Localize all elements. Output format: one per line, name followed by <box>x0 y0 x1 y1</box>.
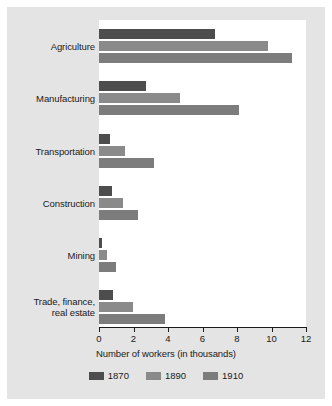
bar-1870 <box>99 290 113 300</box>
legend-item-1870: 1870 <box>89 370 129 381</box>
x-axis-tick-label: 8 <box>225 333 249 344</box>
bar-1910 <box>99 53 292 63</box>
bar-1890 <box>99 146 125 156</box>
bar-1890 <box>99 250 107 260</box>
bar-group <box>99 29 309 63</box>
x-axis-tick <box>134 327 135 332</box>
category-label: Trade, finance, real estate <box>0 296 95 318</box>
x-axis-tick-label: 10 <box>260 333 284 344</box>
category-label: Construction <box>0 198 95 209</box>
bar-1870 <box>99 186 112 196</box>
bar-1910 <box>99 314 165 324</box>
legend-swatch-1870 <box>89 372 104 380</box>
legend-item-1910: 1910 <box>203 370 243 381</box>
category-label: Manufacturing <box>0 93 95 104</box>
x-axis-tick <box>237 327 238 332</box>
x-axis-tick <box>203 327 204 332</box>
x-axis-tick-label: 0 <box>87 333 111 344</box>
bar-group <box>99 81 309 115</box>
bar-1890 <box>99 198 123 208</box>
legend-label-1910: 1910 <box>222 370 243 381</box>
legend-swatch-1890 <box>146 372 161 380</box>
legend-label-1890: 1890 <box>165 370 186 381</box>
bar-1870 <box>99 29 215 39</box>
bar-1870 <box>99 134 110 144</box>
bar-1890 <box>99 302 133 312</box>
x-axis-tick <box>168 327 169 332</box>
category-label: Agriculture <box>0 41 95 52</box>
legend-swatch-1910 <box>203 372 218 380</box>
bar-group <box>99 238 309 272</box>
bar-group <box>99 134 309 168</box>
x-axis-tick-label: 12 <box>294 333 318 344</box>
bar-group <box>99 290 309 324</box>
bar-1890 <box>99 41 268 51</box>
bar-1910 <box>99 158 154 168</box>
bar-1870 <box>99 238 102 248</box>
chart-figure-panel: AgricultureManufacturingTransportationCo… <box>7 7 325 399</box>
category-label: Transportation <box>0 146 95 157</box>
x-axis-tick <box>272 327 273 332</box>
bar-1910 <box>99 210 138 220</box>
bar-chart: AgricultureManufacturingTransportationCo… <box>7 7 325 399</box>
bar-1910 <box>99 262 116 272</box>
x-axis-tick-label: 4 <box>156 333 180 344</box>
legend-label-1870: 1870 <box>108 370 129 381</box>
x-axis-title: Number of workers (in thousands) <box>7 348 325 359</box>
bar-1870 <box>99 81 146 91</box>
x-axis-tick <box>306 327 307 332</box>
plot-background <box>99 20 306 327</box>
x-axis-tick-label: 2 <box>122 333 146 344</box>
bar-1890 <box>99 93 180 103</box>
bar-1910 <box>99 105 239 115</box>
x-axis-tick <box>99 327 100 332</box>
category-label: Mining <box>0 250 95 261</box>
legend-item-1890: 1890 <box>146 370 186 381</box>
bar-group <box>99 186 309 220</box>
x-axis-tick-label: 6 <box>191 333 215 344</box>
chart-legend: 187018901910 <box>7 370 325 381</box>
